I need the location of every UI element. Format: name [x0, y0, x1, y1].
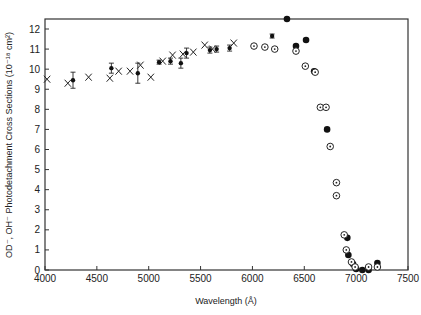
- y-tick-label: 0: [34, 265, 40, 276]
- circled-dot-point: [262, 44, 269, 51]
- x-tick-label: 5500: [189, 273, 212, 284]
- x-marker-point: [148, 74, 154, 81]
- chart: 40004500500055006000650070007500 0123456…: [0, 0, 421, 315]
- filled-point-with-error: [109, 63, 114, 73]
- y-tick-label: 2: [34, 224, 40, 235]
- y-tick-label: 4: [34, 184, 40, 195]
- circled-dot-point: [323, 104, 330, 111]
- x-tick-label: 7500: [397, 273, 420, 284]
- x-tick-label: 6500: [293, 273, 316, 284]
- filled-point-with-error: [178, 58, 183, 68]
- circled-dot-point: [365, 264, 372, 271]
- x-tick-label: 5000: [138, 273, 161, 284]
- y-axis: 0123456789101112: [29, 24, 49, 276]
- x-tick-label: 6000: [241, 273, 264, 284]
- x-marker-point: [85, 74, 91, 81]
- x-marker-point: [169, 52, 175, 59]
- y-tick-label: 3: [34, 204, 40, 215]
- x-marker-point: [127, 68, 133, 75]
- y-tick-label: 6: [34, 144, 40, 155]
- x-marker-point: [65, 80, 71, 87]
- circled-dot-point: [341, 232, 348, 239]
- circled-dot-point: [343, 247, 350, 254]
- y-tick-label: 7: [34, 124, 40, 135]
- filled-point: [284, 16, 291, 23]
- x-tick-label: 4500: [86, 273, 109, 284]
- x-marker-point: [107, 75, 113, 82]
- circled-dot-point: [333, 179, 340, 186]
- circled-dot-point: [352, 264, 359, 271]
- y-tick-label: 11: [30, 44, 41, 55]
- filled-point: [324, 126, 331, 133]
- x-axis-label: Wavelength (Å): [195, 296, 257, 306]
- x-marker-point: [202, 42, 208, 49]
- filled-point-with-error: [168, 58, 173, 64]
- circled-dot-point: [251, 43, 258, 50]
- y-axis-label: OD⁻, OH⁻ Photodetachment Cross Sections …: [4, 32, 14, 258]
- circled-dot-point: [312, 69, 319, 76]
- circled-dot-point: [293, 48, 300, 55]
- filled-point-with-error: [270, 34, 275, 38]
- y-tick-label: 10: [29, 64, 41, 75]
- x-marker-point: [190, 49, 196, 56]
- x-marker-point: [115, 68, 121, 75]
- y-tick-label: 5: [34, 164, 40, 175]
- x-tick-label: 7000: [345, 273, 368, 284]
- circled-dot-point: [333, 192, 340, 199]
- filled-point: [359, 267, 366, 274]
- plot-frame: [45, 19, 408, 270]
- filled-point-with-error: [71, 72, 76, 88]
- filled-point: [303, 37, 310, 44]
- y-tick-label: 9: [34, 84, 40, 95]
- circled-dot-point: [327, 143, 334, 150]
- y-tick-label: 8: [34, 104, 40, 115]
- y-tick-label: 1: [34, 244, 40, 255]
- circled-dot-point: [302, 63, 309, 70]
- circled-dot-point: [271, 46, 278, 53]
- circled-dot-point: [374, 264, 381, 271]
- data-marks: [44, 16, 381, 274]
- y-tick-label: 12: [29, 24, 41, 35]
